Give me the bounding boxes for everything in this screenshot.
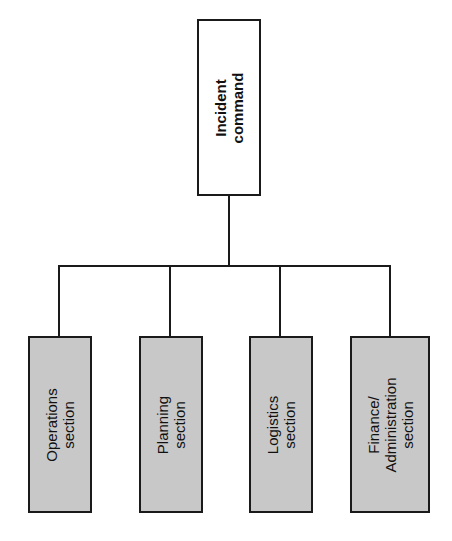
incident-command-label: Incident command	[212, 72, 246, 143]
operations-connector-line	[58, 265, 60, 337]
logistics-section-box: Logistics section	[249, 336, 313, 513]
horizontal-bus-line	[58, 265, 391, 267]
finance-administration-section-box: Finance/ Administration section	[350, 336, 430, 513]
operations-section-box: Operations section	[28, 336, 92, 513]
finance-administration-section-label: Finance/ Administration section	[365, 377, 416, 472]
logistics-connector-line	[279, 265, 281, 337]
planning-section-label: Planning section	[154, 395, 188, 453]
operations-section-label: Operations section	[43, 388, 77, 461]
incident-command-org-chart: Incident command Operations section Plan…	[0, 0, 452, 541]
incident-command-box: Incident command	[197, 19, 261, 196]
logistics-section-label: Logistics section	[264, 395, 298, 453]
finance-connector-line	[389, 265, 391, 337]
root-connector-line	[228, 195, 230, 267]
planning-connector-line	[169, 265, 171, 337]
planning-section-box: Planning section	[139, 336, 203, 513]
